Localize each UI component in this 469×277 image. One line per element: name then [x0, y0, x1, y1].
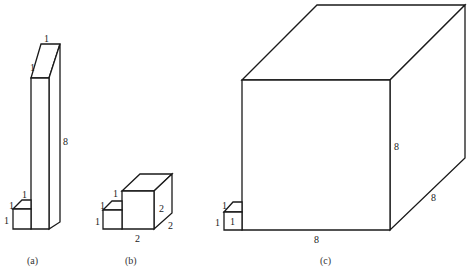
- prism-front-face: [31, 78, 49, 229]
- label-a-cube-width: 1: [22, 189, 27, 200]
- label-c-big-height: 8: [394, 141, 399, 152]
- prism-right-face: [49, 44, 60, 229]
- label-b-big-depth: 2: [168, 220, 173, 231]
- unit-cube-front-face: [13, 209, 31, 229]
- label-b-cube-depth: 1: [100, 200, 105, 211]
- label-a-prism-top-width: 1: [44, 33, 49, 44]
- unit-cube-b: [103, 201, 122, 229]
- cube-b-front-face: [122, 191, 154, 229]
- caption-c: (c): [320, 255, 331, 267]
- label-a-cube-height: 1: [4, 215, 9, 226]
- unit-cube-top-face: [13, 200, 31, 209]
- tall-prism: [31, 44, 60, 229]
- unit-cube: [13, 200, 31, 229]
- caption-b: (b): [125, 255, 137, 267]
- label-a-prism-top-depth: 1: [30, 62, 35, 73]
- label-c-cube-depth: 1: [222, 200, 227, 211]
- cube-2x2x2: [122, 174, 172, 229]
- label-c-cube-front: 1: [230, 216, 235, 227]
- figure-canvas: 1 1 8 1 1 1 (a) 1 1 1 2 2 2 (b): [0, 0, 469, 277]
- label-b-big-height: 2: [159, 203, 164, 214]
- panel-b: 1 1 1 2 2 2 (b): [95, 174, 173, 267]
- label-b-big-width: 2: [135, 233, 140, 244]
- panel-c: 1 1 1 8 8 8 (c): [215, 5, 465, 267]
- label-c-big-width: 8: [314, 234, 319, 245]
- label-a-prism-height: 8: [63, 136, 68, 147]
- cube-c-front-face: [242, 80, 390, 230]
- label-c-big-depth: 8: [431, 192, 436, 203]
- caption-a: (a): [27, 255, 38, 267]
- panel-a: 1 1 8 1 1 1 (a): [4, 33, 68, 267]
- label-b-cube-height: 1: [95, 216, 100, 227]
- unit-cube-b-front-face: [103, 210, 122, 229]
- unit-cube-b-top-face: [103, 201, 122, 210]
- figure-diagram: 1 1 8 1 1 1 (a) 1 1 1 2 2 2 (b): [0, 0, 469, 277]
- label-b-cube-width: 1: [113, 188, 118, 199]
- label-a-cube-depth: 1: [9, 200, 14, 211]
- label-c-cube-height: 1: [215, 217, 220, 228]
